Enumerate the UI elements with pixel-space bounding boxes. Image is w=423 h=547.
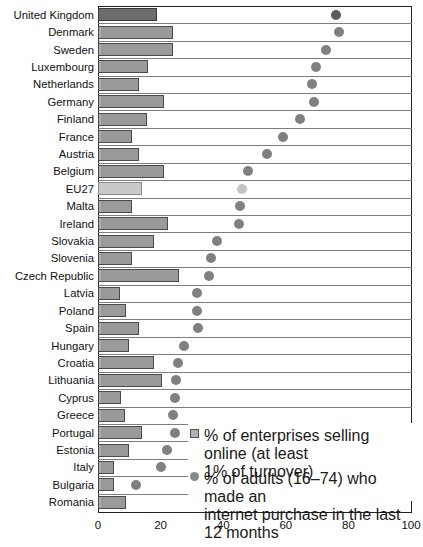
bar-enterprises xyxy=(98,304,126,317)
dot-adults xyxy=(179,341,189,351)
bar-dot-chart: United KingdomDenmarkSwedenLuxembourgNet… xyxy=(0,0,423,547)
bar-enterprises xyxy=(98,130,132,143)
chart-row: France xyxy=(0,129,423,146)
chart-row: Cyprus xyxy=(0,390,423,407)
category-label: Cyprus xyxy=(0,392,94,404)
dot-adults xyxy=(295,114,305,124)
chart-row: Luxembourg xyxy=(0,59,423,76)
chart-row: Poland xyxy=(0,303,423,320)
bar-enterprises xyxy=(98,165,164,178)
bar-enterprises xyxy=(98,113,147,126)
dot-adults xyxy=(173,358,183,368)
bar-enterprises xyxy=(98,374,162,387)
chart-row: United Kingdom xyxy=(0,7,423,24)
category-label: EU27 xyxy=(0,183,94,195)
chart-row: EU27 xyxy=(0,181,423,198)
category-label: Denmark xyxy=(0,26,94,38)
category-label: Greece xyxy=(0,409,94,421)
chart-row: Finland xyxy=(0,111,423,128)
bar-enterprises xyxy=(98,8,157,21)
legend-circle-icon xyxy=(190,472,199,481)
chart-row: Ireland xyxy=(0,216,423,233)
bar-enterprises xyxy=(98,322,139,335)
chart-row: Austria xyxy=(0,146,423,163)
bar-enterprises xyxy=(98,235,154,248)
bar-enterprises xyxy=(98,478,114,491)
dot-adults xyxy=(204,271,214,281)
bar-enterprises xyxy=(98,356,154,369)
chart-row: Czech Republic xyxy=(0,268,423,285)
x-tick-label: 0 xyxy=(95,519,101,531)
category-label: Netherlands xyxy=(0,78,94,90)
dot-adults xyxy=(192,288,202,298)
dot-adults xyxy=(235,201,245,211)
chart-row: Latvia xyxy=(0,286,423,303)
category-label: United Kingdom xyxy=(0,9,94,21)
dot-adults xyxy=(168,410,178,420)
bar-enterprises xyxy=(98,339,129,352)
category-label: Croatia xyxy=(0,357,94,369)
legend-item-adults: % of adults (16–74) who made an internet… xyxy=(190,470,412,542)
category-label: Austria xyxy=(0,148,94,160)
chart-row: Germany xyxy=(0,94,423,111)
category-label: Malta xyxy=(0,200,94,212)
bar-enterprises xyxy=(98,269,179,282)
bar-enterprises xyxy=(98,60,148,73)
chart-row: Hungary xyxy=(0,338,423,355)
dot-adults xyxy=(193,323,203,333)
bar-enterprises xyxy=(98,444,129,457)
dot-adults xyxy=(307,79,317,89)
dot-adults xyxy=(278,132,288,142)
category-label: Slovakia xyxy=(0,235,94,247)
legend-label-adults: % of adults (16–74) who made an internet… xyxy=(204,470,404,542)
chart-row: Slovenia xyxy=(0,251,423,268)
dot-adults xyxy=(206,253,216,263)
dot-adults xyxy=(262,149,272,159)
dot-adults xyxy=(162,445,172,455)
category-label: Hungary xyxy=(0,340,94,352)
chart-row: Sweden xyxy=(0,42,423,59)
chart-row: Lithuania xyxy=(0,373,423,390)
x-tick-label: 20 xyxy=(154,519,167,531)
category-label: Belgium xyxy=(0,165,94,177)
category-label: France xyxy=(0,131,94,143)
category-label: Lithuania xyxy=(0,374,94,386)
category-label: Bulgaria xyxy=(0,479,94,491)
chart-row: Netherlands xyxy=(0,77,423,94)
chart-row: Belgium xyxy=(0,164,423,181)
bar-enterprises xyxy=(98,461,114,474)
dot-adults xyxy=(212,236,222,246)
category-label: Finland xyxy=(0,113,94,125)
bar-enterprises xyxy=(98,43,173,56)
dot-adults xyxy=(321,45,331,55)
category-label: Italy xyxy=(0,461,94,473)
dot-adults xyxy=(234,219,244,229)
category-label: Spain xyxy=(0,322,94,334)
bar-enterprises xyxy=(98,95,164,108)
dot-adults xyxy=(192,306,202,316)
dot-adults xyxy=(243,166,253,176)
bar-enterprises xyxy=(98,287,120,300)
bar-enterprises xyxy=(98,496,126,509)
category-label: Romania xyxy=(0,496,94,508)
legend-square-icon xyxy=(190,429,199,438)
chart-row: Spain xyxy=(0,320,423,337)
bar-enterprises xyxy=(98,78,139,91)
chart-row: Croatia xyxy=(0,355,423,372)
dot-adults xyxy=(237,184,247,194)
category-label: Portugal xyxy=(0,427,94,439)
dot-adults xyxy=(156,462,166,472)
dot-adults xyxy=(131,480,141,490)
bar-enterprises xyxy=(98,200,132,213)
bar-enterprises xyxy=(98,409,125,422)
category-label: Luxembourg xyxy=(0,61,94,73)
category-label: Poland xyxy=(0,305,94,317)
bar-enterprises xyxy=(98,217,168,230)
category-label: Slovenia xyxy=(0,252,94,264)
category-label: Czech Republic xyxy=(0,270,94,282)
bar-enterprises xyxy=(98,252,132,265)
chart-row: Denmark xyxy=(0,24,423,41)
bar-enterprises xyxy=(98,182,142,195)
dot-adults xyxy=(331,10,341,20)
chart-row: Slovakia xyxy=(0,233,423,250)
